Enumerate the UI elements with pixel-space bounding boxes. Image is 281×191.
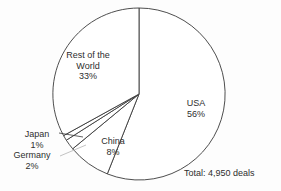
pie-label-china: China 8%	[95, 136, 131, 157]
pie-label-rest-of-world-line1: Rest of the	[57, 50, 119, 61]
pie-label-usa: USA 56%	[178, 98, 214, 119]
pie-label-japan-name: Japan	[14, 129, 60, 140]
pie-label-usa-name: USA	[178, 98, 214, 109]
chart-total-annotation: Total: 4,950 deals	[184, 168, 276, 179]
pie-label-rest-of-world: Rest of the World 33%	[57, 50, 119, 82]
pie-label-rest-of-world-percent: 33%	[57, 71, 119, 82]
pie-label-usa-percent: 56%	[178, 109, 214, 120]
pie-chart-figure: Rest of the World 33% USA 56% China 8% J…	[0, 0, 281, 191]
pie-label-rest-of-world-line2: World	[57, 61, 119, 72]
pie-label-china-name: China	[95, 136, 131, 147]
pie-label-germany-name: Germany	[4, 150, 60, 161]
pie-label-china-percent: 8%	[95, 147, 131, 158]
pie-label-japan-percent: 1%	[14, 140, 60, 151]
pie-label-germany-percent: 2%	[4, 161, 60, 172]
pie-label-japan: Japan 1%	[14, 129, 60, 150]
pie-label-germany: Germany 2%	[4, 150, 60, 171]
